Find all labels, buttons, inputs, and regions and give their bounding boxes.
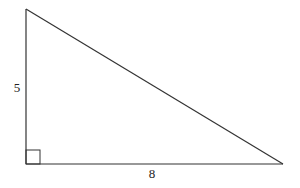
horizontal-leg-label: 8 bbox=[149, 166, 156, 181]
right-triangle-diagram: 5 8 bbox=[0, 0, 300, 188]
hypotenuse bbox=[26, 9, 283, 164]
vertical-leg-label: 5 bbox=[14, 80, 21, 95]
right-angle-marker bbox=[26, 150, 40, 164]
